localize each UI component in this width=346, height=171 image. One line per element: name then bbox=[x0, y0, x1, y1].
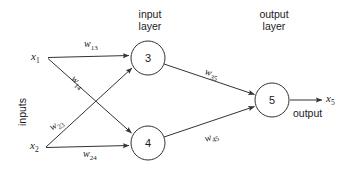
output-label-x5-sub: 5 bbox=[331, 98, 335, 107]
output-layer-title-line1: output bbox=[248, 8, 300, 20]
weight-label-w24-base: w bbox=[83, 148, 90, 159]
neural-network-diagram: input layer output layer 3 4 5 x1 x2 x5 … bbox=[0, 0, 346, 171]
output-layer-title-line2: layer bbox=[248, 20, 300, 32]
weight-label-w24: w24 bbox=[83, 148, 97, 162]
input-layer-title: input layer bbox=[126, 8, 174, 32]
node-label-5: 5 bbox=[255, 94, 289, 107]
input-layer-title-line1: input bbox=[126, 8, 174, 20]
output-layer-title: output layer bbox=[248, 8, 300, 32]
inputs-side-label: inputs bbox=[16, 98, 28, 126]
input-label-x1: x1 bbox=[31, 50, 40, 66]
weight-label-w13-sub: 13 bbox=[91, 44, 98, 52]
input-label-x2-sub: 2 bbox=[35, 145, 39, 154]
input-layer-title-line2: layer bbox=[126, 20, 174, 32]
input-label-x1-sub: 1 bbox=[36, 56, 40, 65]
edge-x2-to-node3 bbox=[46, 68, 132, 147]
node-label-3: 3 bbox=[131, 52, 165, 65]
output-caption: output bbox=[293, 107, 322, 119]
node-label-4: 4 bbox=[131, 137, 165, 150]
weight-label-w13-base: w bbox=[84, 38, 91, 49]
weight-label-w24-sub: 24 bbox=[90, 154, 97, 162]
weight-label-w13: w13 bbox=[84, 38, 98, 52]
output-label-x5: x5 bbox=[326, 92, 335, 108]
edge-x1-to-node3 bbox=[48, 56, 129, 58]
input-label-x2: x2 bbox=[30, 139, 39, 155]
